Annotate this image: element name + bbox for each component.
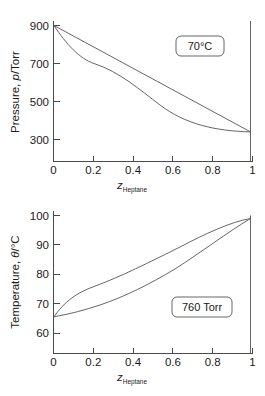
pressure-y-axis-title: Pressure, p/Torr <box>9 51 21 133</box>
temperature-ytick-label-90: 90 <box>36 239 49 251</box>
temperature-xtick-label-0.8: 0.8 <box>205 356 221 368</box>
pressure-x-axis-title: zHeptane <box>116 179 147 194</box>
pressure-xtick-label-0.6: 0.6 <box>165 164 181 176</box>
pressure-ytick-label-500: 500 <box>30 96 49 108</box>
pressure-ytick-label-300: 300 <box>30 134 49 146</box>
pressure-composition-chart: 900 700 500 300 0 0.2 0.4 0.6 0.8 1 zHep… <box>0 0 265 198</box>
temperature-y-axis-prefix: Temperature, <box>9 258 21 329</box>
temperature-x-ticks <box>54 348 253 354</box>
temperature-annotation-label: 760 Torr <box>182 301 222 313</box>
pressure-xtick-label-0.4: 0.4 <box>125 164 142 176</box>
temperature-xtick-label-0.6: 0.6 <box>165 356 181 368</box>
pressure-xtick-label-1: 1 <box>249 164 255 176</box>
pressure-annotation-label: 70°C <box>188 40 213 52</box>
temperature-ytick-label-100: 100 <box>30 210 49 222</box>
pressure-xtick-label-0.2: 0.2 <box>85 164 101 176</box>
pressure-ytick-label-700: 700 <box>30 58 49 70</box>
pressure-y-axis-prefix: Pressure, <box>9 80 21 132</box>
temperature-y-axis-title: Temperature, θ/°C <box>9 235 21 328</box>
temperature-chart-canvas: 100 90 80 70 60 0 0.2 0.4 0.6 0.8 1 zHep… <box>0 198 265 396</box>
temperature-ytick-label-60: 60 <box>36 327 49 339</box>
temperature-ytick-label-70: 70 <box>36 298 49 310</box>
temperature-xtick-label-0: 0 <box>50 356 56 368</box>
pressure-x-axis-subscript: Heptane <box>123 186 148 194</box>
temperature-xtick-label-1: 1 <box>249 356 255 368</box>
temperature-xtick-label-0.4: 0.4 <box>125 356 142 368</box>
temperature-y-axis-suffix: /°C <box>9 235 21 251</box>
pressure-chart-canvas: 900 700 500 300 0 0.2 0.4 0.6 0.8 1 zHep… <box>0 0 265 198</box>
temperature-xtick-label-0.2: 0.2 <box>85 356 101 368</box>
pressure-y-ticks <box>54 26 60 140</box>
temperature-annotation-badge: 760 Torr <box>172 297 232 317</box>
temperature-x-axis-subscript: Heptane <box>123 378 148 386</box>
pressure-xtick-label-0: 0 <box>50 164 56 176</box>
pressure-annotation-badge: 70°C <box>176 36 224 56</box>
temperature-ytick-label-80: 80 <box>36 268 49 280</box>
temperature-x-axis-title: zHeptane <box>116 371 147 386</box>
pressure-x-ticks <box>54 156 253 162</box>
pressure-y-axis-suffix: /Torr <box>9 51 21 74</box>
temperature-composition-chart: 100 90 80 70 60 0 0.2 0.4 0.6 0.8 1 zHep… <box>0 198 265 396</box>
pressure-ytick-label-900: 900 <box>30 20 49 32</box>
pressure-xtick-label-0.8: 0.8 <box>205 164 221 176</box>
